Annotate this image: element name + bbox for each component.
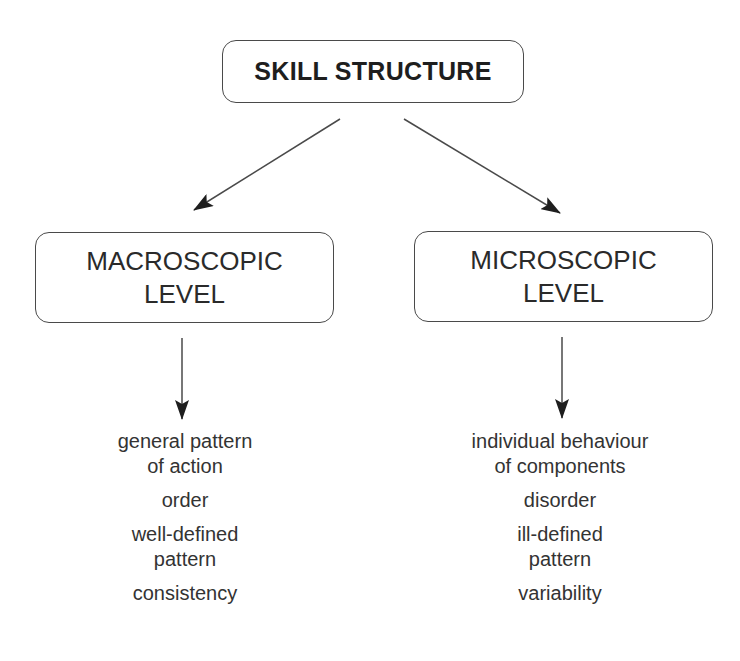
characteristic-line: general pattern	[60, 429, 310, 454]
characteristic-line: individual behaviour	[430, 429, 690, 454]
characteristic-line: well-defined	[60, 522, 310, 547]
characteristic-line: ill-defined	[430, 522, 690, 547]
characteristic-ill-defined: ill-defined pattern	[430, 522, 690, 572]
macroscopic-level-box: MACROSCOPIC LEVEL	[35, 232, 334, 323]
characteristic-line: of action	[60, 454, 310, 479]
characteristic-line: consistency	[60, 581, 310, 606]
characteristic-general-pattern: general pattern of action	[60, 429, 310, 479]
characteristic-consistency: consistency	[60, 581, 310, 606]
characteristic-individual-behaviour: individual behaviour of components	[430, 429, 690, 479]
characteristic-line: pattern	[60, 547, 310, 572]
level-name-line: LEVEL	[523, 277, 604, 310]
characteristic-line: disorder	[430, 488, 690, 513]
characteristic-line: pattern	[430, 547, 690, 572]
level-name-line: LEVEL	[144, 278, 225, 311]
characteristic-disorder: disorder	[430, 488, 690, 513]
characteristic-variability: variability	[430, 581, 690, 606]
microscopic-level-box: MICROSCOPIC LEVEL	[414, 231, 713, 322]
diagram-title: SKILL STRUCTURE	[254, 57, 491, 86]
macroscopic-characteristics: general pattern of action order well-def…	[60, 429, 310, 615]
characteristic-order: order	[60, 488, 310, 513]
characteristic-line: of components	[430, 454, 690, 479]
skill-structure-box: SKILL STRUCTURE	[222, 40, 524, 103]
level-name-line: MICROSCOPIC	[470, 244, 656, 277]
arrow-to-macroscopic	[194, 119, 340, 210]
arrow-to-microscopic	[404, 119, 560, 213]
characteristic-line: order	[60, 488, 310, 513]
characteristic-line: variability	[430, 581, 690, 606]
characteristic-well-defined: well-defined pattern	[60, 522, 310, 572]
level-name-line: MACROSCOPIC	[86, 245, 282, 278]
microscopic-characteristics: individual behaviour of components disor…	[430, 429, 690, 615]
